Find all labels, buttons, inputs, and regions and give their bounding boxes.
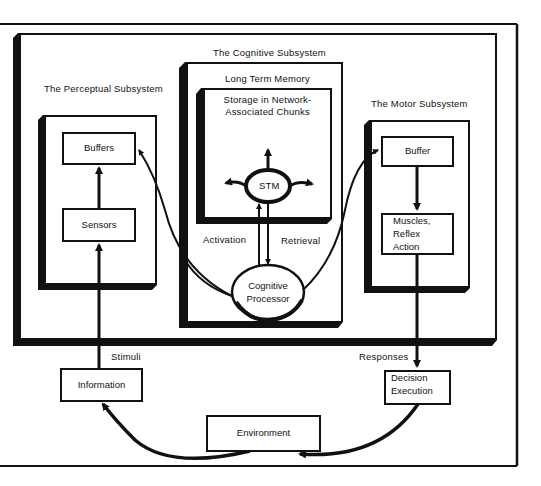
decision-line-2: Execution [391,385,433,398]
muscles-box: Muscles, Reflex Action [381,213,454,255]
muscles-line-1: Muscles, [393,215,430,228]
activation-label: Activation [203,234,246,246]
perceptual-subsystem-label: The Perceptual Subsystem [44,83,163,95]
cognitive-processor-label: Cognitive Processor [232,278,304,308]
processor-line-2: Processor [247,293,290,306]
storage-label: Storage in Network- Associated Chunks [205,94,330,118]
motor-buffer-box: Buffer [381,136,454,167]
long-term-memory-label: Long Term Memory [225,73,310,85]
retrieval-label: Retrieval [281,235,320,247]
muscles-line-3: Action [393,241,419,254]
cognitive-subsystem-label: The Cognitive Subsystem [213,47,326,59]
decision-line-1: Decision [391,372,427,385]
stm-label: STM [259,180,280,192]
storage-line-2: Associated Chunks [205,106,330,118]
motor-subsystem-label: The Motor Subsystem [371,98,468,110]
responses-label: Responses [359,351,408,363]
stimuli-label: Stimuli [111,351,141,363]
information-box: Information [60,368,143,402]
muscles-line-2: Reflex [393,228,420,241]
environment-box: Environment [206,415,321,452]
processor-line-1: Cognitive [248,280,288,293]
buffers-box: Buffers [62,132,136,165]
storage-line-1: Storage in Network- [205,94,330,106]
sensors-box: Sensors [62,208,136,242]
decision-execution-box: Decision Execution [384,370,451,405]
